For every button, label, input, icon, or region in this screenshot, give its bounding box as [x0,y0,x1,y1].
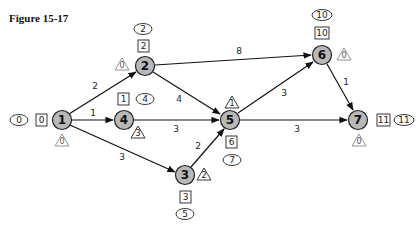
svg-text:1: 1 [343,77,349,87]
svg-text:7: 7 [354,113,362,127]
svg-text:3: 3 [173,124,179,134]
earliest-time-node-4: 1 [118,93,129,105]
svg-text:6: 6 [229,137,235,147]
latest-time-node-6: 10 [312,10,332,21]
node-7: 7 [349,111,368,130]
svg-text:10: 10 [316,10,328,20]
svg-text:1: 1 [90,108,96,118]
edge-1-4: 1 [71,108,113,120]
network-diagram: 2 1 3 8 4 3 2 3 3 1 1 0 [0,0,420,230]
earliest-time-node-7: 11 [377,114,390,126]
earliest-time-node-5: 6 [226,136,237,148]
edge-2-6: 8 [155,46,311,65]
slack-node-1: 0 [55,134,69,146]
svg-text:10: 10 [316,28,328,38]
node-2: 2 [136,57,155,76]
svg-text:2: 2 [201,171,206,180]
node-4: 4 [115,111,134,130]
svg-text:2: 2 [141,41,147,51]
svg-text:3: 3 [294,124,300,134]
latest-time-node-7: 11 [394,115,414,126]
edge-4-5: 3 [134,120,219,134]
svg-text:1: 1 [121,94,127,104]
edge-5-7: 3 [240,120,347,134]
node-3: 3 [176,166,195,185]
slack-node-3: 2 [197,168,211,180]
svg-text:3: 3 [281,88,287,98]
svg-text:7: 7 [229,155,235,165]
svg-text:0: 0 [119,61,124,70]
svg-text:0: 0 [356,137,361,146]
svg-text:1: 1 [229,99,234,108]
slack-node-5: 1 [225,96,239,108]
slack-node-4: 3 [131,126,145,138]
svg-text:5: 5 [182,209,188,219]
earliest-time-node-3: 3 [180,191,191,203]
node-5: 5 [221,111,240,130]
svg-text:2: 2 [195,141,201,151]
latest-time-node-3: 5 [176,209,194,220]
svg-text:3: 3 [119,152,125,162]
svg-text:5: 5 [226,113,234,127]
node-6: 6 [313,46,332,65]
svg-text:3: 3 [135,129,140,138]
svg-text:0: 0 [59,137,64,146]
svg-text:2: 2 [92,81,98,91]
svg-text:11: 11 [398,115,409,125]
earliest-time-node-2: 2 [138,40,149,52]
svg-text:0: 0 [16,115,22,125]
slack-node-7: 0 [352,134,366,146]
svg-text:11: 11 [378,115,389,125]
svg-text:2: 2 [140,24,146,34]
latest-time-node-4: 4 [136,94,154,105]
latest-time-node-5: 7 [223,155,241,166]
slack-node-6: 0 [337,48,351,60]
edge-5-6: 3 [238,62,313,113]
svg-text:1: 1 [58,113,66,127]
slack-node-2: 0 [115,58,129,70]
svg-text:0: 0 [39,115,45,125]
latest-time-node-2: 2 [134,24,152,35]
node-1: 1 [53,111,72,130]
earliest-time-node-6: 10 [315,27,329,39]
svg-text:3: 3 [183,192,189,202]
svg-text:4: 4 [120,113,128,127]
svg-text:4: 4 [176,94,182,104]
edge-1-3: 3 [70,125,175,172]
latest-time-node-1: 0 [10,115,28,126]
edge-2-5: 4 [153,72,220,114]
svg-text:3: 3 [181,168,189,182]
svg-text:8: 8 [236,46,242,56]
edge-6-7: 1 [327,64,353,110]
svg-text:4: 4 [142,94,148,104]
svg-text:0: 0 [341,51,346,60]
edge-3-5: 2 [191,129,224,167]
earliest-time-node-1: 0 [36,114,47,126]
svg-text:6: 6 [318,48,326,62]
svg-text:2: 2 [141,59,149,73]
